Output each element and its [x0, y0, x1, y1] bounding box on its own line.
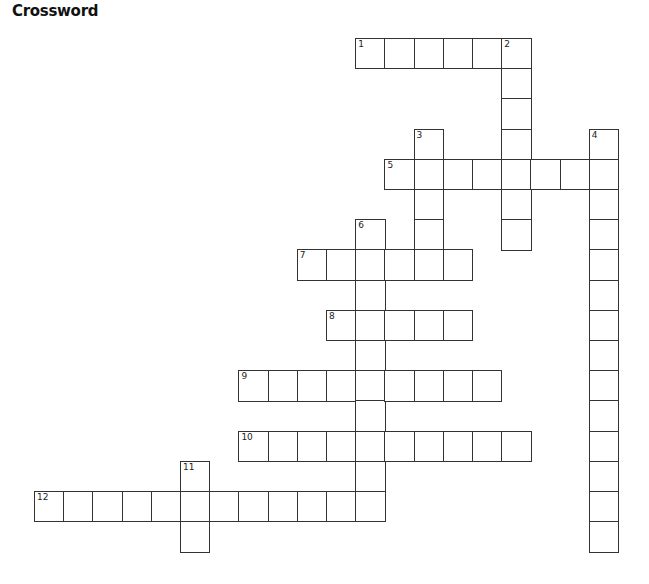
- grid-cell[interactable]: 10: [238, 431, 268, 462]
- grid-cell[interactable]: [589, 491, 619, 522]
- grid-cell[interactable]: [501, 189, 531, 220]
- grid-cell[interactable]: [443, 38, 473, 69]
- grid-cell[interactable]: [472, 370, 502, 401]
- grid-cell[interactable]: [589, 159, 619, 190]
- grid-cell[interactable]: [589, 340, 619, 371]
- grid-cell[interactable]: [589, 521, 619, 552]
- grid-cell[interactable]: [355, 400, 385, 431]
- grid-cell[interactable]: 8: [326, 310, 356, 341]
- grid-cell[interactable]: [414, 159, 444, 190]
- grid-cell[interactable]: [151, 491, 181, 522]
- grid-cell[interactable]: [414, 249, 444, 280]
- grid-cell[interactable]: [238, 491, 268, 522]
- clue-number: 12: [37, 493, 48, 502]
- grid-cell[interactable]: [326, 370, 356, 401]
- grid-cell[interactable]: 6: [355, 219, 385, 250]
- grid-cell[interactable]: [414, 219, 444, 250]
- grid-cell[interactable]: [297, 431, 327, 462]
- grid-cell[interactable]: 3: [414, 129, 444, 160]
- grid-cell[interactable]: [326, 491, 356, 522]
- crossword-grid: 123456789101112: [0, 0, 649, 584]
- grid-cell[interactable]: [355, 249, 385, 280]
- grid-cell[interactable]: [443, 249, 473, 280]
- grid-cell[interactable]: [501, 129, 531, 160]
- grid-cell[interactable]: [355, 491, 385, 522]
- clue-number: 4: [592, 131, 598, 140]
- grid-cell[interactable]: [355, 461, 385, 492]
- grid-cell[interactable]: [414, 189, 444, 220]
- grid-cell[interactable]: [355, 310, 385, 341]
- grid-cell[interactable]: 7: [297, 249, 327, 280]
- grid-cell[interactable]: [180, 491, 210, 522]
- grid-cell[interactable]: [326, 249, 356, 280]
- grid-cell[interactable]: [414, 431, 444, 462]
- grid-cell[interactable]: [589, 249, 619, 280]
- clue-number: 9: [241, 372, 247, 381]
- grid-cell[interactable]: [384, 310, 414, 341]
- grid-cell[interactable]: [501, 159, 531, 190]
- grid-cell[interactable]: [297, 370, 327, 401]
- grid-cell[interactable]: [589, 280, 619, 311]
- grid-cell[interactable]: 9: [238, 370, 268, 401]
- grid-cell[interactable]: [384, 370, 414, 401]
- clue-number: 11: [183, 463, 194, 472]
- clue-number: 6: [358, 221, 364, 230]
- grid-cell[interactable]: [589, 400, 619, 431]
- grid-cell[interactable]: [414, 370, 444, 401]
- grid-cell[interactable]: [355, 280, 385, 311]
- grid-cell[interactable]: [355, 340, 385, 371]
- grid-cell[interactable]: [589, 189, 619, 220]
- grid-cell[interactable]: [63, 491, 93, 522]
- clue-number: 10: [241, 433, 252, 442]
- clue-number: 3: [417, 131, 423, 140]
- grid-cell[interactable]: [414, 310, 444, 341]
- clue-number: 8: [329, 312, 335, 321]
- grid-cell[interactable]: [384, 249, 414, 280]
- grid-cell[interactable]: [355, 431, 385, 462]
- clue-number: 1: [358, 40, 364, 49]
- grid-cell[interactable]: [122, 491, 152, 522]
- grid-cell[interactable]: [589, 310, 619, 341]
- grid-cell[interactable]: [589, 461, 619, 492]
- grid-cell[interactable]: [268, 431, 298, 462]
- clue-number: 7: [300, 251, 306, 260]
- grid-cell[interactable]: 1: [355, 38, 385, 69]
- grid-cell[interactable]: [268, 491, 298, 522]
- grid-cell[interactable]: [443, 159, 473, 190]
- grid-cell[interactable]: [384, 431, 414, 462]
- grid-cell[interactable]: [589, 431, 619, 462]
- grid-cell[interactable]: [472, 431, 502, 462]
- grid-cell[interactable]: [355, 370, 385, 401]
- grid-cell[interactable]: [384, 38, 414, 69]
- grid-cell[interactable]: 2: [501, 38, 531, 69]
- grid-cell[interactable]: [209, 491, 239, 522]
- grid-cell[interactable]: [501, 431, 531, 462]
- grid-cell[interactable]: [297, 491, 327, 522]
- grid-cell[interactable]: [472, 159, 502, 190]
- grid-cell[interactable]: [472, 38, 502, 69]
- grid-cell[interactable]: [414, 38, 444, 69]
- grid-cell[interactable]: [589, 370, 619, 401]
- clue-number: 2: [504, 40, 510, 49]
- grid-cell[interactable]: [443, 431, 473, 462]
- grid-cell[interactable]: 12: [34, 491, 64, 522]
- clue-number: 5: [387, 161, 393, 170]
- grid-cell[interactable]: [589, 219, 619, 250]
- grid-cell[interactable]: [501, 68, 531, 99]
- grid-cell[interactable]: [501, 219, 531, 250]
- grid-cell[interactable]: 5: [384, 159, 414, 190]
- grid-cell[interactable]: [560, 159, 590, 190]
- grid-cell[interactable]: [92, 491, 122, 522]
- grid-cell[interactable]: [530, 159, 560, 190]
- grid-cell[interactable]: 4: [589, 129, 619, 160]
- grid-cell[interactable]: [326, 431, 356, 462]
- grid-cell[interactable]: [443, 310, 473, 341]
- grid-cell[interactable]: 11: [180, 461, 210, 492]
- grid-cell[interactable]: [501, 98, 531, 129]
- grid-cell[interactable]: [180, 521, 210, 552]
- grid-cell[interactable]: [268, 370, 298, 401]
- grid-cell[interactable]: [443, 370, 473, 401]
